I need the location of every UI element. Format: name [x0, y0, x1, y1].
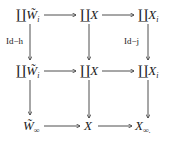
node-r1c3: ∐Xi: [138, 8, 159, 27]
node-r3c2: X: [84, 119, 92, 133]
node-r2c1: ∐W̃i: [16, 64, 39, 83]
node-r2c3: ∐Xi: [138, 64, 159, 83]
node-r3c1: W̃∞: [23, 119, 40, 138]
node-r2c2: ∐X: [80, 64, 98, 78]
node-r3c3: X∞.: [135, 119, 151, 138]
label-id-minus-j: Id−j: [124, 36, 139, 46]
label-id-minus-h: Id−h: [6, 36, 23, 46]
node-r1c2: ∐X: [80, 8, 98, 22]
node-r1c1: ∐W̃i: [16, 8, 39, 27]
